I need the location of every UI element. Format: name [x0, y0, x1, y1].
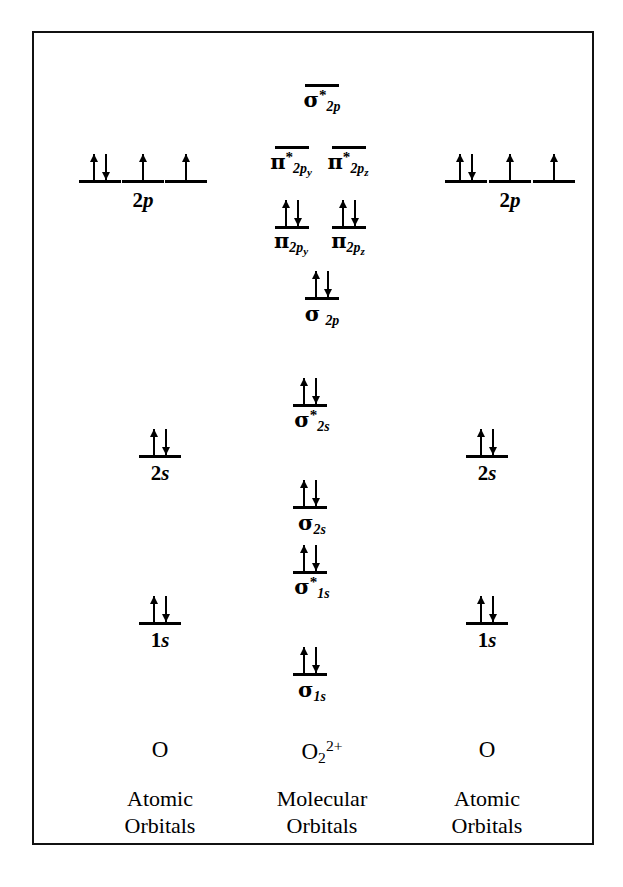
electrons-pi-2py [271, 199, 313, 226]
electrons-left-1s [139, 595, 181, 622]
electrons-left-2p-a [79, 153, 121, 180]
mo-label-sigma-2s: σ2s [298, 512, 326, 537]
mo-label-sigma-1s: σ1s [298, 679, 326, 704]
column-caption-left-line1: Atomic [125, 786, 196, 813]
level-bar [489, 180, 531, 183]
electrons-sigma-2s [289, 479, 331, 506]
column-caption-center: Molecular Orbitals [277, 786, 367, 840]
electrons-right-2p-a [445, 153, 487, 180]
column-caption-right-line1: Atomic [452, 786, 523, 813]
species-label-left: O [152, 736, 169, 764]
electrons-sigma-star-2s [289, 377, 331, 404]
electron-arrow-up [282, 200, 291, 226]
mo-label-sigma-star-2s: σ*2s [294, 408, 329, 434]
electron-arrow-down [489, 596, 498, 622]
electron-arrow-up [150, 596, 159, 622]
column-caption-left-line2: Orbitals [125, 813, 196, 840]
level-bar [122, 180, 164, 183]
level-bar [466, 455, 508, 458]
level-bar [445, 180, 487, 183]
column-caption-right: Atomic Orbitals [452, 786, 523, 840]
mo-label-pi-star-2pz: π*2pz [327, 150, 368, 179]
electron-arrow-up [506, 154, 515, 180]
atomic-label-right-1s: 1s [478, 628, 497, 653]
mo-label-pi-2pz: π2pz [331, 230, 365, 258]
electron-arrow-up [339, 200, 348, 226]
electron-arrow-down [312, 647, 321, 673]
electron-arrow-up [300, 480, 309, 506]
level-bar [139, 455, 181, 458]
mo-label-sigma-2p: σ 2p [305, 303, 340, 328]
level-bar [293, 506, 327, 509]
electron-arrow-up [456, 154, 465, 180]
level-bar [165, 180, 207, 183]
electron-arrow-down [162, 596, 171, 622]
mo-label-pi-star-2py: π*2py [270, 150, 312, 179]
level-bar [305, 297, 339, 300]
level-bar [79, 180, 121, 183]
species-label-center: O22+ [301, 736, 342, 767]
column-caption-right-line2: Orbitals [452, 813, 523, 840]
level-bar [466, 622, 508, 625]
electron-arrow-down [162, 429, 171, 455]
level-bar [293, 673, 327, 676]
electrons-right-2s [466, 428, 508, 455]
electron-arrow-up [312, 271, 321, 297]
mo-label-pi-2py: π2py [274, 230, 308, 258]
atomic-label-right-2s: 2s [478, 461, 497, 486]
electron-arrow-up [300, 545, 309, 571]
electron-arrow-up [300, 647, 309, 673]
level-bar [533, 180, 575, 183]
electrons-left-2p-b [122, 153, 164, 180]
electron-arrow-up [139, 154, 148, 180]
electron-arrow-up [150, 429, 159, 455]
electron-arrow-down [324, 271, 333, 297]
electron-arrow-up [477, 429, 486, 455]
electrons-right-1s [466, 595, 508, 622]
atomic-label-left-2s: 2s [151, 461, 170, 486]
mo-label-sigma-star-1s: σ*1s [294, 575, 329, 601]
electrons-left-2s [139, 428, 181, 455]
column-caption-center-line1: Molecular [277, 786, 367, 813]
electrons-right-2p-c [533, 153, 575, 180]
electron-arrow-up [182, 154, 191, 180]
electron-arrow-up [550, 154, 559, 180]
atomic-label-left-2p: 2p [133, 188, 154, 213]
electron-arrow-down [102, 154, 111, 180]
electron-arrow-down [351, 200, 360, 226]
mo-label-sigma-star-2p: σ*2p [304, 88, 341, 114]
electron-arrow-down [489, 429, 498, 455]
level-bar [139, 622, 181, 625]
column-caption-left: Atomic Orbitals [125, 786, 196, 840]
electron-arrow-up [300, 378, 309, 404]
electron-arrow-down [312, 480, 321, 506]
electrons-left-2p-c [165, 153, 207, 180]
atomic-label-left-1s: 1s [151, 628, 170, 653]
electron-arrow-up [477, 596, 486, 622]
electrons-sigma-1s [289, 646, 331, 673]
electron-arrow-down [468, 154, 477, 180]
electron-arrow-down [312, 545, 321, 571]
electrons-right-2p-b [489, 153, 531, 180]
electron-arrow-up [90, 154, 99, 180]
electrons-sigma-star-1s [289, 544, 331, 571]
column-caption-center-line2: Orbitals [277, 813, 367, 840]
atomic-label-right-2p: 2p [500, 188, 521, 213]
electron-arrow-down [312, 378, 321, 404]
electrons-pi-2pz [328, 199, 370, 226]
electrons-sigma-2p [301, 270, 343, 297]
species-label-right: O [479, 736, 496, 764]
electron-arrow-down [294, 200, 303, 226]
